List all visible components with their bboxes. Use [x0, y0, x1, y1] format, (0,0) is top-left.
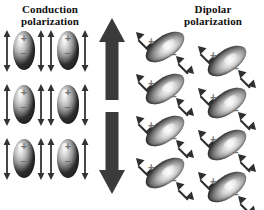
- vertical-double-arrow-icon: [80, 84, 90, 126]
- conduction-particle: + –: [2, 84, 46, 126]
- field-arrow-down-icon: [92, 112, 132, 196]
- dipolar-particle: + –: [196, 170, 258, 210]
- vertical-double-arrow-icon: [46, 30, 56, 72]
- dipolar-particle: + –: [134, 114, 196, 162]
- vertical-double-arrow-icon: [80, 138, 90, 180]
- diagonal-double-arrow-icon: [174, 180, 196, 202]
- vertical-double-arrow-icon: [36, 138, 46, 180]
- conduction-ellipse: [13, 139, 35, 178]
- dipolar-particle: + –: [134, 72, 196, 120]
- dipolar-particle: + –: [196, 128, 258, 176]
- vertical-double-arrow-icon: [46, 84, 56, 126]
- conduction-polarization-panel: + – + – + –: [0, 28, 90, 210]
- vertical-double-arrow-icon: [46, 138, 56, 180]
- vertical-double-arrow-icon: [80, 30, 90, 72]
- conduction-particle: + –: [2, 138, 46, 180]
- conduction-ellipse: [13, 85, 35, 124]
- diagonal-double-arrow-icon: [236, 194, 258, 210]
- conduction-ellipse: [57, 31, 79, 70]
- conduction-polarization-title: Conduction polarization: [6, 3, 94, 27]
- conduction-ellipse: [13, 31, 35, 70]
- dipolar-polarization-title: Dipolar polarization: [166, 3, 260, 27]
- field-arrow-up-icon: [92, 16, 132, 100]
- dipolar-particle: + –: [196, 86, 258, 134]
- dipolar-polarization-panel: + – + – + –: [132, 28, 264, 210]
- vertical-double-arrow-icon: [2, 138, 12, 180]
- conduction-particle: + –: [46, 138, 90, 180]
- conduction-title-line1: Conduction: [6, 3, 94, 15]
- dipolar-particle: + –: [134, 30, 196, 78]
- vertical-double-arrow-icon: [2, 30, 12, 72]
- conduction-particle: + –: [46, 30, 90, 72]
- dipolar-title-line1: Dipolar: [166, 3, 260, 15]
- dipolar-particle: + –: [134, 156, 196, 204]
- conduction-ellipse: [57, 139, 79, 178]
- vertical-double-arrow-icon: [36, 84, 46, 126]
- conduction-ellipse: [57, 85, 79, 124]
- dipolar-title-line2: polarization: [166, 15, 260, 27]
- vertical-double-arrow-icon: [2, 84, 12, 126]
- conduction-particle: + –: [2, 30, 46, 72]
- vertical-double-arrow-icon: [36, 30, 46, 72]
- dipolar-particle: + –: [196, 44, 258, 92]
- applied-field-panel: [92, 16, 132, 198]
- conduction-title-line2: polarization: [6, 15, 94, 27]
- conduction-particle: + –: [46, 84, 90, 126]
- polarization-figure: Conduction polarization Dipolar polariza…: [0, 0, 264, 210]
